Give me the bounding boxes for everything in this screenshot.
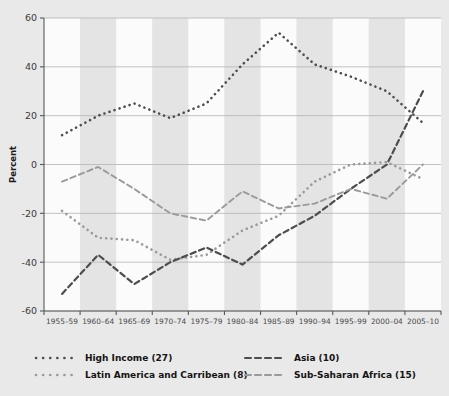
legend-item: Latin America and Carribean (8) bbox=[36, 370, 248, 380]
y-axis-title: Percent bbox=[8, 146, 18, 183]
y-axis-tick-label: -20 bbox=[21, 208, 37, 219]
x-axis-tick-label: 1955–59 bbox=[46, 317, 78, 326]
x-axis-tick-label: 1970–74 bbox=[154, 317, 186, 326]
legend-item: Asia (10) bbox=[245, 353, 339, 363]
y-axis-tick-label: 20 bbox=[25, 110, 37, 121]
x-axis-tick-label: 1965–69 bbox=[118, 317, 150, 326]
y-axis-tick-labels: -60-40-200204060 bbox=[21, 12, 37, 316]
x-axis-tick-label: 1960–64 bbox=[82, 317, 114, 326]
y-axis-tick-label: 60 bbox=[25, 12, 37, 23]
legend-label: Sub-Saharan Africa (15) bbox=[294, 370, 416, 380]
chart-figure: -60-40-200204060 1955–591960–641965–6919… bbox=[0, 0, 449, 396]
legend-label: Latin America and Carribean (8) bbox=[85, 370, 248, 380]
legend-label: Asia (10) bbox=[294, 353, 339, 363]
x-axis-tick-label: 1975–79 bbox=[190, 317, 222, 326]
y-axis-tick-label: -40 bbox=[21, 257, 37, 268]
y-axis-tick-label: 40 bbox=[25, 61, 37, 72]
legend-item: Sub-Saharan Africa (15) bbox=[245, 370, 416, 380]
y-axis-tick-label: -60 bbox=[21, 305, 37, 316]
x-axis-tick-label: 1980–84 bbox=[227, 317, 259, 326]
x-axis-tick-label: 2000–04 bbox=[371, 317, 403, 326]
y-axis-tick-label: 0 bbox=[31, 159, 37, 170]
x-axis-tick-label: 1985–89 bbox=[263, 317, 295, 326]
x-axis-tick-label: 1995–99 bbox=[335, 317, 367, 326]
legend-item: High Income (27) bbox=[36, 353, 172, 363]
x-axis-tick-labels: 1955–591960–641965–691970–741975–791980–… bbox=[46, 317, 439, 326]
x-axis-tick-label: 1990–94 bbox=[299, 317, 331, 326]
y-axis-title-group: Percent bbox=[8, 146, 18, 183]
x-axis-tick-label: 2005–10 bbox=[407, 317, 439, 326]
legend-label: High Income (27) bbox=[85, 353, 172, 363]
percent-by-region-line-chart: -60-40-200204060 1955–591960–641965–6919… bbox=[0, 0, 449, 396]
legend: High Income (27)Asia (10)Latin America a… bbox=[36, 353, 416, 380]
